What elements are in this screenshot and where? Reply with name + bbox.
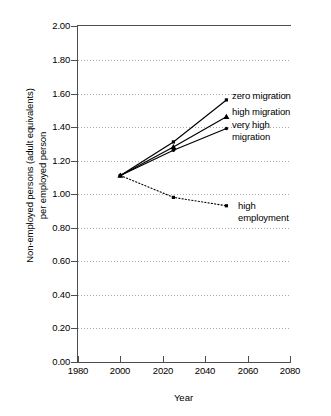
data-point	[172, 196, 175, 199]
series-markers	[117, 98, 229, 207]
legend-label-high-migration: high migration	[232, 106, 290, 118]
data-point	[119, 174, 122, 177]
data-point	[172, 140, 175, 143]
series-lines	[120, 100, 226, 206]
chart-figure: Non-employed persons (adult equivalents)…	[0, 0, 331, 416]
data-point	[225, 204, 228, 207]
series-line-high-employment	[120, 176, 226, 206]
data-point	[225, 98, 228, 101]
legend-label-zero-migration: zero migration	[232, 90, 291, 102]
data-point	[170, 144, 176, 149]
legend-label-very-high-migration: very high migration	[232, 119, 270, 143]
data-point	[223, 114, 229, 119]
legend-label-high-employment: high employment	[238, 200, 289, 224]
series-line-zero-migration	[120, 100, 226, 176]
data-point	[172, 149, 176, 153]
data-point	[225, 127, 229, 131]
